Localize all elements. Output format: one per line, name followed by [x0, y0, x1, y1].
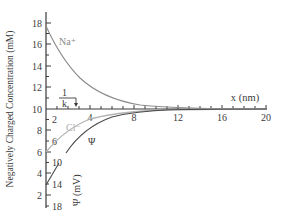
svg-text:6: 6: [37, 147, 42, 158]
svg-text:10: 10: [32, 104, 42, 115]
svg-text:18: 18: [52, 201, 62, 212]
svg-text:12: 12: [173, 112, 183, 123]
psi-tick-labels: 2 6 10 14 18: [52, 114, 62, 212]
svg-text:2: 2: [52, 114, 57, 125]
svg-text:16: 16: [32, 39, 42, 50]
psi-curve: [66, 109, 267, 153]
svg-text:12: 12: [32, 82, 42, 93]
y-tick-labels: 18 16 14 12 10 8 6 4 2: [32, 18, 42, 201]
cl-label: Cl⁻: [66, 122, 81, 133]
svg-text:8: 8: [37, 125, 42, 136]
svg-text:14: 14: [32, 61, 42, 72]
svg-text:4: 4: [88, 112, 93, 123]
na-label: Na⁺: [59, 36, 76, 47]
psi-axis-label: Ψ (mV): [71, 174, 83, 206]
svg-text:2: 2: [37, 190, 42, 201]
svg-text:1: 1: [62, 87, 67, 98]
y-axis-label: Negatively Charged Concentration (mM): [5, 31, 16, 188]
psi-label: Ψ: [88, 136, 96, 147]
svg-text:18: 18: [32, 18, 42, 29]
svg-text:16: 16: [217, 112, 227, 123]
svg-text:8: 8: [132, 112, 137, 123]
svg-text:k: k: [62, 98, 67, 109]
debye-length-annotation: 1 k: [59, 87, 78, 109]
svg-text:20: 20: [261, 112, 271, 123]
x-axis-label: x (nm): [231, 92, 260, 104]
chart: 18 16 14 12 10 8 6 4 2 2 6 10 14 18 4 8 …: [0, 0, 289, 220]
svg-text:4: 4: [37, 168, 42, 179]
svg-text:14: 14: [52, 179, 62, 190]
